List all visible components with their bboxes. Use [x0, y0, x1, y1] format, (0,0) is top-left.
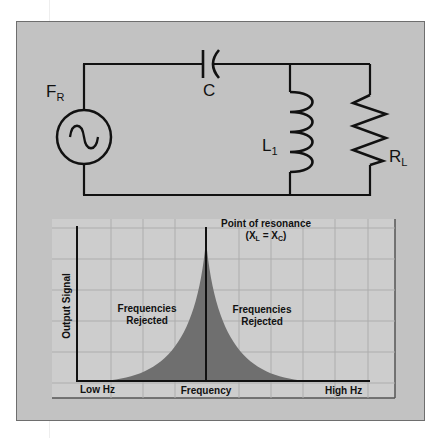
peak-annotation: Point of resonance (XL = XC)	[216, 218, 316, 245]
inductor-coil-icon	[290, 92, 313, 172]
y-axis-label: Output Signal	[61, 266, 73, 346]
right-rejected-line2: Rejected	[225, 316, 299, 328]
source-label-text: F	[46, 82, 56, 101]
circuit	[57, 50, 386, 196]
capacitor-label: C	[203, 81, 215, 101]
source-label-sub: R	[56, 91, 64, 103]
x-high-label: High Hz	[325, 385, 362, 397]
resistor-label: RL	[389, 147, 407, 168]
right-rejected-line1: Frequencies	[225, 304, 299, 316]
inductor-label: L1	[262, 136, 278, 157]
peak-equation: (XL = XC)	[216, 230, 316, 245]
left-rejected-line2: Rejected	[110, 315, 184, 327]
left-rejected-line1: Frequencies	[110, 303, 184, 315]
source-label: FR	[46, 82, 64, 103]
peak-title: Point of resonance	[216, 218, 316, 230]
sine-wave-icon	[70, 126, 98, 149]
resistor-label-sub: L	[401, 156, 407, 168]
peak-eq-open: (X	[246, 230, 256, 241]
left-rejected-annotation: Frequencies Rejected	[110, 303, 184, 327]
resistor-label-text: R	[389, 147, 401, 166]
resistor-zigzag-icon	[353, 95, 386, 165]
right-rejected-annotation: Frequencies Rejected	[225, 304, 299, 328]
inductor-label-sub: 1	[271, 145, 277, 157]
chart-panel	[52, 219, 395, 398]
x-low-label: Low Hz	[80, 384, 115, 396]
peak-eq-close: )	[283, 230, 286, 241]
peak-eq-mid: = X	[260, 230, 278, 241]
x-axis-label: Frequency	[166, 385, 246, 397]
